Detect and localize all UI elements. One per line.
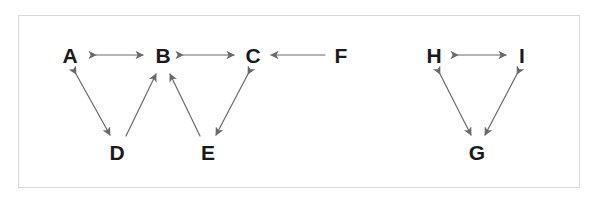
node-label-i: I [519, 45, 525, 66]
graph-edges-layer [0, 0, 599, 204]
node-label-c: C [245, 45, 260, 66]
node-label-f: F [335, 45, 348, 66]
node-label-e: E [201, 142, 215, 163]
node-label-g: G [469, 142, 485, 163]
edges-group [76, 55, 517, 136]
edge-a-d [76, 74, 110, 135]
node-label-b: B [155, 45, 170, 66]
edge-h-g [440, 74, 471, 135]
edge-c-e [216, 74, 248, 135]
node-label-a: A [62, 45, 77, 66]
diagram-canvas: ABCFDEHIG [0, 0, 599, 204]
node-label-h: H [426, 45, 441, 66]
edge-d-b [126, 74, 156, 136]
edge-e-b [170, 74, 200, 136]
node-label-d: D [109, 142, 124, 163]
edge-i-g [485, 74, 517, 135]
